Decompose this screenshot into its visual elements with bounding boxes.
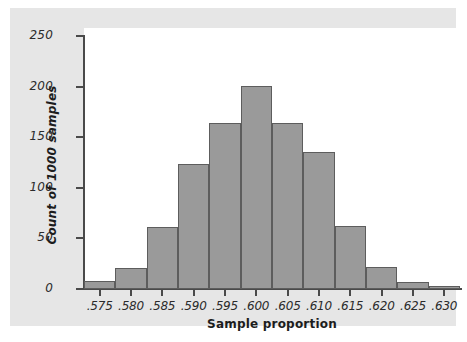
y-axis-tick: [76, 136, 84, 138]
x-axis-tick: [412, 289, 414, 296]
y-axis-tick: [76, 237, 84, 239]
y-axis-tick: [76, 187, 84, 189]
histogram-bar: [303, 152, 334, 289]
x-axis-tick: [443, 289, 445, 296]
histogram-figure: { "chart_data": { "type": "bar", "title"…: [0, 0, 467, 342]
x-axis-tick: [99, 289, 101, 296]
figure-panel: 050100150200250 .575.580.585.590.595.600…: [10, 8, 456, 326]
y-axis-tick: [76, 86, 84, 88]
histogram-bar: [115, 268, 146, 289]
x-axis-tick: [255, 289, 257, 296]
y-axis-tick: [76, 288, 84, 290]
histogram-bar: [84, 281, 115, 289]
x-axis-tick: [224, 289, 226, 296]
x-axis-tick: [381, 289, 383, 296]
histogram-bar: [147, 227, 178, 289]
x-axis-title: Sample proportion: [84, 317, 460, 331]
x-axis-tick: [130, 289, 132, 296]
x-axis-tick: [287, 289, 289, 296]
histogram-bar: [335, 226, 366, 289]
y-axis-title: Count of 1000 samples: [45, 55, 59, 275]
x-axis-tick: [193, 289, 195, 296]
y-axis-tick-label: 250: [9, 28, 53, 42]
y-axis-tick-label: 0: [9, 281, 53, 295]
histogram-bar: [272, 123, 303, 289]
y-axis-line: [83, 35, 85, 290]
y-axis-tick: [76, 35, 84, 37]
histogram-bar: [429, 286, 460, 289]
x-axis-tick: [318, 289, 320, 296]
histogram-bar: [397, 282, 428, 289]
x-axis-tick-label: .630: [424, 299, 464, 313]
x-axis-tick: [349, 289, 351, 296]
histogram-bar: [209, 123, 240, 289]
histogram-bar: [178, 164, 209, 289]
histogram-bar: [366, 267, 397, 289]
x-axis-tick: [161, 289, 163, 296]
histogram-bar: [241, 86, 272, 289]
